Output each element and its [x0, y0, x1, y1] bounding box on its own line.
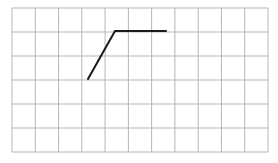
grid-diagram [0, 0, 278, 163]
drawn-line [88, 31, 166, 79]
grid-lines [12, 8, 268, 152]
